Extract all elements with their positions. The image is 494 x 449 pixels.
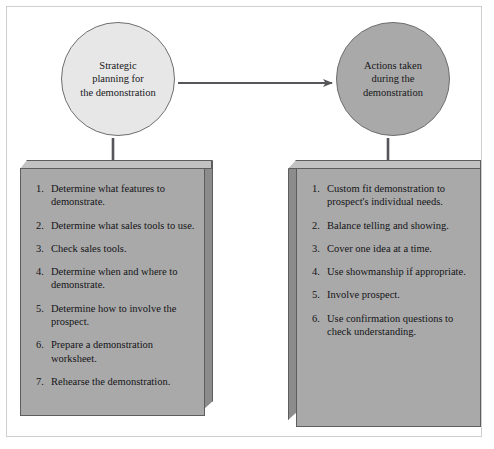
node-strategic-planning-label: Strategic planning for the demonstration: [68, 59, 168, 100]
list-item: 4.Use showmanship if appropriate.: [312, 265, 474, 278]
right-checklist-item-text: Balance telling and showing.: [327, 219, 474, 232]
right-checklist-item-text: Involve prospect.: [327, 288, 474, 301]
left-checklist: 1.Determine what features to demonstrate…: [36, 182, 196, 388]
left-checklist-item-number: 7.: [36, 375, 51, 388]
left-checklist-item-number: 1.: [36, 182, 51, 195]
right-checklist-item-number: 5.: [312, 288, 327, 301]
right-checklist-item-text: Use showmanship if appropriate.: [327, 265, 474, 278]
list-item: 2.Balance telling and showing.: [312, 219, 474, 232]
left-checklist-item-text: Determine what features to demonstrate.: [51, 182, 196, 209]
left-checklist-item-text: Prepare a demonstration worksheet.: [51, 338, 196, 365]
slab-right-bevel: [204, 160, 213, 409]
list-item: 2.Determine what sales tools to use.: [36, 219, 196, 232]
list-item: 5.Involve prospect.: [312, 288, 474, 301]
left-checklist-item-text: Determine when and where to demonstrate.: [51, 265, 196, 292]
right-checklist-item-text: Use confirmation questions to check unde…: [327, 312, 474, 339]
list-item: 1.Determine what features to demonstrate…: [36, 182, 196, 209]
list-item: 5.Determine how to involve the prospect.: [36, 302, 196, 329]
left-checklist-item-number: 2.: [36, 219, 51, 232]
left-checklist-item-number: 3.: [36, 242, 51, 255]
node-actions-taken-label: Actions taken during the demonstration: [351, 59, 435, 100]
left-checklist-box[interactable]: 1.Determine what features to demonstrate…: [14, 160, 214, 420]
list-item: 6.Prepare a demonstration worksheet.: [36, 338, 196, 365]
left-checklist-item-text: Rehearse the demonstration.: [51, 375, 196, 388]
node-actions-taken[interactable]: Actions taken during the demonstration: [336, 22, 450, 136]
right-checklist-box[interactable]: 1.Custom fit demonstration to prospect's…: [282, 160, 482, 430]
diagram-canvas: Strategic planning for the demonstration…: [0, 0, 494, 449]
right-checklist-item-number: 2.: [312, 219, 327, 232]
left-checklist-item-number: 6.: [36, 338, 51, 351]
list-item: 3.Check sales tools.: [36, 242, 196, 255]
right-checklist: 1.Custom fit demonstration to prospect's…: [312, 182, 474, 338]
left-checklist-item-text: Determine what sales tools to use.: [51, 219, 196, 232]
right-checklist-item-number: 1.: [312, 182, 327, 195]
left-checklist-item-text: Check sales tools.: [51, 242, 196, 255]
left-checklist-item-number: 5.: [36, 302, 51, 315]
right-checklist-item-number: 6.: [312, 312, 327, 325]
right-checklist-item-number: 3.: [312, 242, 327, 255]
right-checklist-item-text: Cover one idea at a time.: [327, 242, 474, 255]
list-item: 4.Determine when and where to demonstrat…: [36, 265, 196, 292]
list-item: 1.Custom fit demonstration to prospect's…: [312, 182, 474, 209]
left-checklist-item-number: 4.: [36, 265, 51, 278]
list-item: 3.Cover one idea at a time.: [312, 242, 474, 255]
list-item: 7.Rehearse the demonstration.: [36, 375, 196, 388]
right-checklist-item-text: Custom fit demonstration to prospect's i…: [327, 182, 474, 209]
right-checklist-item-number: 4.: [312, 265, 327, 278]
node-strategic-planning[interactable]: Strategic planning for the demonstration: [61, 22, 175, 136]
list-item: 6.Use confirmation questions to check un…: [312, 312, 474, 339]
left-checklist-item-text: Determine how to involve the prospect.: [51, 302, 196, 329]
